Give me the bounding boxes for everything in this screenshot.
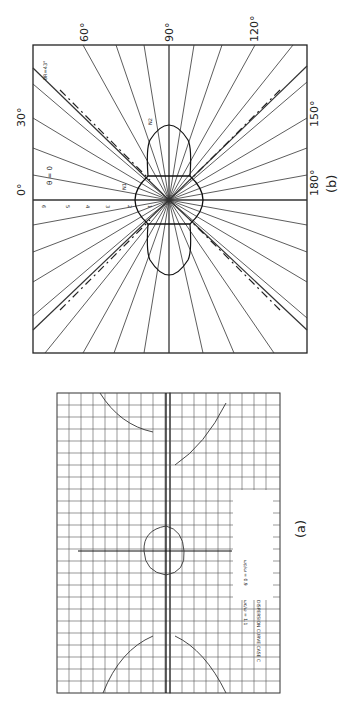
radial-tick-6: 6 — [41, 205, 47, 208]
radial-tick-1: 1 — [147, 205, 153, 208]
angle-label-120: 120° — [248, 16, 261, 43]
angle-label-0: 0° — [15, 184, 28, 197]
angle-label-150: 150° — [308, 101, 321, 128]
angle-label-60: 60° — [78, 23, 91, 43]
dispersion-curve-upper-right — [175, 403, 226, 465]
dispersion-curve-upper-left — [100, 393, 153, 432]
figure-canvas: 1 2 3 4 5 6 0° 30° 60° 90° 120° 150° 180… — [0, 0, 350, 709]
theta-r-label: θR=43° — [42, 60, 48, 80]
panel-b-caption: (b) — [324, 175, 339, 193]
radial-tick-5: 5 — [65, 205, 71, 208]
radial-tick-4: 4 — [85, 205, 91, 208]
radial-tick-3: 3 — [105, 205, 111, 208]
radial-tick-2: 2 — [127, 205, 133, 208]
panel-a-caption: (a) — [293, 520, 308, 538]
angle-label-180: 180° — [308, 170, 321, 197]
theta-zero-label: θ = 0 — [46, 166, 54, 185]
annotation-param-1: ωp/ω = 0.9 — [243, 560, 248, 586]
n2-label: N2 — [147, 118, 153, 125]
dispersion-curve-lower-left — [103, 636, 153, 693]
annotation-box — [233, 490, 273, 600]
dispersion-curve-lower-right — [175, 636, 226, 693]
panel-b: 1 2 3 4 5 6 0° 30° 60° 90° 120° 150° 180… — [15, 16, 339, 354]
annotation-param-2: ωc/ω = 1.1 — [243, 600, 248, 625]
angle-label-30: 30° — [15, 108, 28, 128]
panel-b-rays — [33, 45, 307, 353]
angle-label-90: 90° — [163, 23, 176, 43]
annotation-title: DISPERSION CURVE CASE C — [256, 600, 261, 662]
n1-label: N1 — [121, 183, 127, 190]
panel-a-grid — [57, 393, 170, 693]
panel-a: DISPERSION CURVE CASE C ωp/ω = 0.9 ωc/ω … — [57, 393, 308, 693]
